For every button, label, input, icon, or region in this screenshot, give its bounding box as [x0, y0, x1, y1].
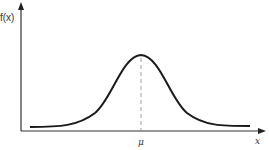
normal-distribution-diagram: f(x) x μ	[0, 0, 269, 150]
bell-curve	[30, 55, 250, 127]
mean-label: μ	[138, 137, 144, 147]
x-axis-label: x	[255, 136, 260, 146]
y-axis-label: f(x)	[0, 12, 14, 23]
